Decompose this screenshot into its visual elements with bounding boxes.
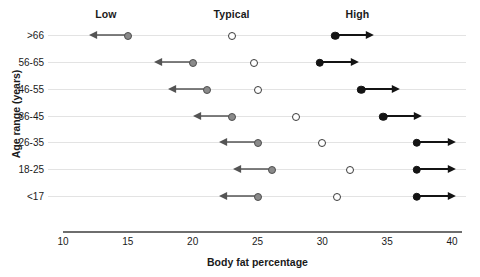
low-marker [254, 139, 262, 147]
low-marker [254, 193, 262, 201]
x-axis-tick-10: 10 [57, 236, 68, 247]
x-axis-tick-35: 35 [382, 236, 393, 247]
column-header-high: High [345, 8, 369, 20]
high-marker [315, 58, 324, 67]
x-axis-tick-20: 20 [187, 236, 198, 247]
typical-marker [254, 86, 262, 94]
y-axis-tick-36-45: 36-45 [0, 111, 44, 122]
y-axis-tick-<17: <17 [0, 191, 44, 202]
x-axis-tick-30: 30 [317, 236, 328, 247]
x-axis-title: Body fat percentage [207, 256, 308, 268]
low-marker [189, 59, 197, 67]
column-header-low: Low [95, 8, 116, 20]
y-axis-tick-46-55: 46-55 [0, 84, 44, 95]
low-marker [203, 86, 211, 94]
typical-marker [250, 59, 258, 67]
high-marker [357, 85, 366, 94]
typical-marker [292, 113, 300, 121]
column-header-typical: Typical [214, 8, 250, 20]
y-axis-tick->66: >66 [0, 30, 44, 41]
typical-marker [228, 32, 236, 40]
x-axis-tick-40: 40 [446, 236, 457, 247]
body-fat-percentage-chart: Low Typical High Age range (years) >6656… [0, 0, 480, 277]
high-marker [413, 165, 422, 174]
y-axis-tick-18-25: 18-25 [0, 164, 44, 175]
typical-marker [346, 166, 354, 174]
x-axis-tick-25: 25 [252, 236, 263, 247]
high-marker [413, 138, 422, 147]
typical-marker [318, 139, 326, 147]
high-marker [379, 112, 388, 121]
y-axis-tick-26-35: 26-35 [0, 137, 44, 148]
typical-marker [333, 193, 341, 201]
low-marker [124, 32, 132, 40]
y-axis-tick-56-65: 56-65 [0, 57, 44, 68]
high-marker [413, 192, 422, 201]
x-axis-line [63, 231, 462, 233]
x-axis-tick-15: 15 [122, 236, 133, 247]
low-marker [228, 113, 236, 121]
high-marker [331, 31, 340, 40]
low-marker [268, 166, 276, 174]
